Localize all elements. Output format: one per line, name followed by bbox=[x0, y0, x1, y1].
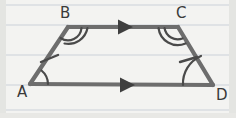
paper-background bbox=[0, 0, 236, 118]
geometry-canvas: A B C D bbox=[0, 0, 236, 118]
vertex-label-D: D bbox=[216, 86, 228, 104]
page-left-shadow bbox=[0, 0, 6, 118]
vertex-label-B: B bbox=[60, 4, 70, 22]
page-bottom-shadow bbox=[0, 113, 236, 118]
vertex-label-A: A bbox=[17, 83, 28, 101]
vertex-label-C: C bbox=[176, 4, 186, 22]
page-right-shadow bbox=[229, 0, 236, 118]
trapezoid-figure: A B C D bbox=[0, 0, 236, 118]
